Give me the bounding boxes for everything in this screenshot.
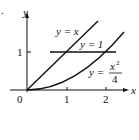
annotation-curve-prefix: y = xyxy=(88,66,104,78)
annotation-curve-numerator: x xyxy=(109,60,115,72)
chart-figure: . y x 0 1 2 1 y = x y = 1 y = x 2 4 xyxy=(0,0,139,140)
x-axis-label: x xyxy=(130,84,136,96)
x-tick-label-2: 2 xyxy=(103,93,109,105)
y-tick-label-1: 1 xyxy=(17,46,23,58)
figure-marker: . xyxy=(1,4,4,16)
annotation-y-equals-1: y = 1 xyxy=(79,38,103,50)
annotation-curve-exponent: 2 xyxy=(116,59,120,67)
annotation-y-equals-x: y = x xyxy=(55,25,79,37)
origin-label: 0 xyxy=(17,93,23,105)
x-tick-label-1: 1 xyxy=(64,93,70,105)
x-axis-arrow-icon xyxy=(123,88,129,92)
y-axis-label: y xyxy=(22,6,28,18)
annotation-curve-denominator: 4 xyxy=(112,73,118,85)
